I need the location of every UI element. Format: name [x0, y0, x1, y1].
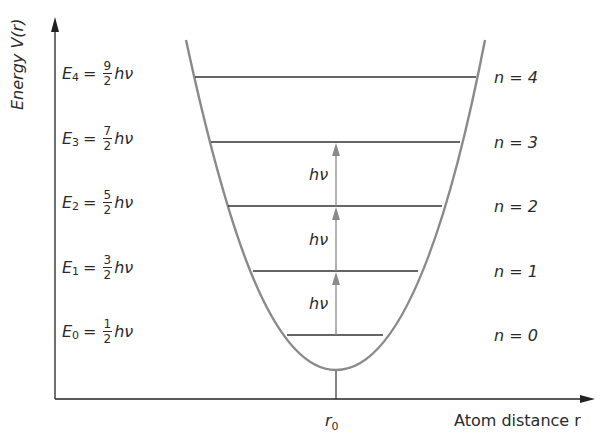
- energy-subscript: 1: [72, 265, 79, 278]
- energy-symbol: E: [62, 129, 72, 148]
- energy-symbol: E: [62, 64, 72, 83]
- energy-label-e1: E1=32hν: [62, 254, 133, 281]
- transition-label: hν: [309, 294, 328, 313]
- equals-sign: =: [83, 129, 96, 148]
- fraction: 12: [103, 318, 113, 345]
- fraction: 32: [103, 254, 113, 281]
- x-axis-arrow-icon: [580, 395, 595, 403]
- energy-subscript: 0: [72, 329, 79, 342]
- fraction: 52: [103, 189, 113, 216]
- energy-unit: hν: [114, 64, 133, 83]
- energy-symbol: E: [62, 258, 72, 277]
- equals-sign: =: [83, 64, 96, 83]
- energy-subscript: 4: [72, 71, 79, 84]
- arrow-head-icon: [332, 143, 340, 156]
- transition-label: hν: [309, 230, 328, 249]
- energy-unit: hν: [114, 322, 133, 341]
- energy-symbol: E: [62, 193, 72, 212]
- energy-label-e0: E0=12hν: [62, 318, 133, 345]
- arrow-head-icon: [332, 272, 340, 285]
- energy-label-e4: E4=92hν: [62, 60, 133, 87]
- equals-sign: =: [83, 322, 96, 341]
- energy-unit: hν: [114, 258, 133, 277]
- fraction: 92: [103, 60, 113, 87]
- quantum-number-n0: n = 0: [494, 326, 538, 345]
- equals-sign: =: [83, 193, 96, 212]
- energy-symbol: E: [62, 322, 72, 341]
- energy-unit: hν: [114, 129, 133, 148]
- energy-unit: hν: [114, 193, 133, 212]
- r0-tick-label: r0: [325, 411, 339, 430]
- x-axis-label: Atom distance r: [454, 411, 581, 430]
- quantum-number-n4: n = 4: [494, 68, 538, 87]
- energy-subscript: 3: [72, 136, 79, 149]
- quantum-number-n1: n = 1: [494, 262, 538, 281]
- equals-sign: =: [83, 258, 96, 277]
- quantum-number-n3: n = 3: [494, 133, 538, 152]
- transition-label: hν: [309, 165, 328, 184]
- fraction: 72: [103, 125, 113, 152]
- energy-label-e3: E3=72hν: [62, 125, 133, 152]
- energy-subscript: 2: [72, 200, 79, 213]
- arrow-head-icon: [332, 207, 340, 220]
- transition-arrows: [332, 143, 340, 335]
- y-axis-label: Energy V(r): [8, 19, 27, 110]
- quantum-number-n2: n = 2: [494, 197, 538, 216]
- y-axis-arrow-icon: [51, 17, 59, 32]
- energy-label-e2: E2=52hν: [62, 189, 133, 216]
